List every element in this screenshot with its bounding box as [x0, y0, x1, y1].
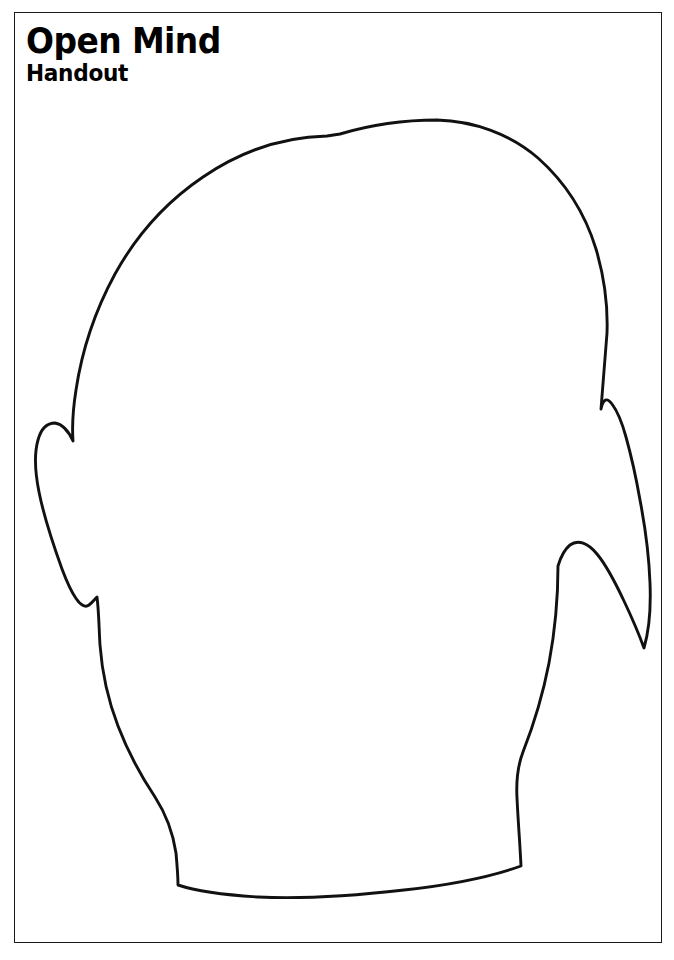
page-subtitle: Handout [26, 61, 421, 86]
title-block: Open Mind Handout [26, 22, 446, 86]
handout-page: Open Mind Handout [0, 0, 674, 960]
page-border-rule [14, 12, 662, 943]
page-title: Open Mind [26, 22, 421, 60]
